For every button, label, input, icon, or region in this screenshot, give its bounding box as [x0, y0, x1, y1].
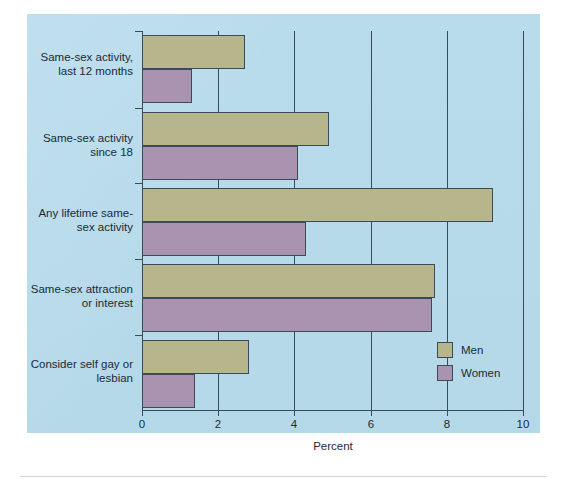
bar-men-3[interactable]	[142, 264, 435, 298]
x-axis-tick-6	[371, 410, 372, 416]
category-label-3-line2: or interest	[30, 297, 133, 311]
bar-women-2[interactable]	[142, 222, 306, 256]
category-label-3-line1: Same-sex attraction	[30, 283, 133, 297]
bar-women-3[interactable]	[142, 298, 432, 332]
x-axis-label-8: 8	[427, 418, 467, 430]
bar-women-1[interactable]	[142, 146, 298, 180]
category-label-4-line1: Consider self gay or	[30, 358, 133, 372]
category-label-1: Same-sex activity since 18	[30, 132, 133, 159]
bar-men-2[interactable]	[142, 188, 493, 222]
x-axis-tick-10	[523, 410, 524, 416]
category-label-0-line2: last 12 months	[30, 65, 133, 79]
category-label-0-line1: Same-sex activity,	[30, 51, 133, 65]
x-axis-tick-0	[142, 410, 143, 416]
legend-entry-women[interactable]: Women	[437, 361, 523, 384]
women-swatch-icon	[437, 365, 453, 381]
x-axis-tick-8	[447, 410, 448, 416]
bar-men-1[interactable]	[142, 112, 329, 146]
x-axis-line	[142, 410, 524, 411]
category-label-2-line1: Any lifetime same-	[30, 207, 133, 221]
bar-men-4[interactable]	[142, 340, 249, 374]
legend-label-men: Men	[461, 344, 483, 356]
x-axis-label-6: 6	[351, 418, 391, 430]
x-axis-label-10: 10	[503, 418, 543, 430]
x-axis-tick-4	[294, 410, 295, 416]
legend-label-women: Women	[461, 367, 500, 379]
x-axis-label-4: 4	[274, 418, 314, 430]
category-label-2: Any lifetime same- sex activity	[30, 207, 133, 234]
category-label-1-line2: since 18	[30, 146, 133, 160]
x-axis-label-2: 2	[198, 418, 238, 430]
x-axis-title: Percent	[142, 440, 524, 452]
x-axis-tick-2	[218, 410, 219, 416]
bar-men-0[interactable]	[142, 35, 245, 69]
men-swatch-icon	[437, 342, 453, 358]
category-label-4: Consider self gay or lesbian	[30, 358, 133, 385]
page-horizontal-rule	[20, 476, 547, 477]
category-label-0: Same-sex activity, last 12 months	[30, 51, 133, 78]
x-axis-label-0: 0	[122, 418, 162, 430]
bar-women-0[interactable]	[142, 69, 192, 103]
legend-entry-men[interactable]: Men	[437, 338, 523, 361]
bar-women-4[interactable]	[142, 374, 195, 408]
legend: Men Women	[437, 338, 523, 384]
category-label-3: Same-sex attraction or interest	[30, 283, 133, 310]
gridline-10	[523, 31, 524, 410]
category-label-4-line2: lesbian	[30, 372, 133, 386]
chart-page: Same-sex activity, last 12 months Same-s…	[0, 0, 568, 487]
category-label-2-line2: sex activity	[30, 221, 133, 235]
category-label-1-line1: Same-sex activity	[30, 132, 133, 146]
